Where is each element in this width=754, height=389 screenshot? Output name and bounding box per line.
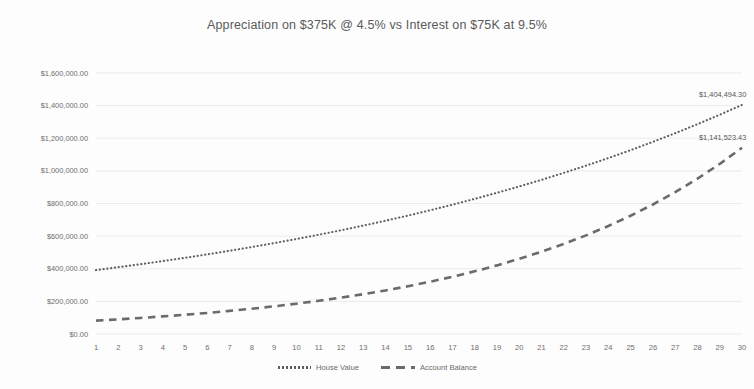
chart-plot-area: $1,600,000.00$1,400,000.00$1,200,000.00$… bbox=[0, 0, 754, 389]
series-group bbox=[96, 105, 742, 321]
x-axis-tick-label: 9 bbox=[272, 343, 276, 352]
x-axis-tick-label: 19 bbox=[493, 343, 501, 352]
data-point-label: $1,404,494.30 bbox=[699, 90, 746, 99]
x-axis-tick-label: 17 bbox=[448, 343, 456, 352]
series-line-house-value bbox=[96, 105, 742, 270]
y-axis-tick-label: $1,400,000.00 bbox=[41, 101, 88, 110]
x-axis-tick-label: 27 bbox=[671, 343, 679, 352]
legend-item-house-value[interactable]: House Value bbox=[277, 363, 359, 372]
x-axis-labels-group: 1234567891011121314151617181920212223242… bbox=[94, 343, 746, 352]
dashed-line-icon bbox=[381, 366, 415, 369]
y-axis-labels-group: $1,600,000.00$1,400,000.00$1,200,000.00$… bbox=[41, 69, 88, 339]
x-axis-tick-label: 8 bbox=[250, 343, 254, 352]
x-axis-tick-label: 23 bbox=[582, 343, 590, 352]
chart-container: Appreciation on $375K @ 4.5% vs Interest… bbox=[0, 0, 754, 389]
y-axis-tick-label: $200,000.00 bbox=[47, 297, 88, 306]
x-axis-tick-label: 7 bbox=[228, 343, 232, 352]
x-axis-tick-label: 30 bbox=[738, 343, 746, 352]
x-axis-tick-label: 20 bbox=[515, 343, 523, 352]
x-axis-tick-label: 5 bbox=[183, 343, 187, 352]
x-axis-tick-label: 25 bbox=[626, 343, 634, 352]
x-axis-tick-label: 22 bbox=[560, 343, 568, 352]
x-axis-tick-label: 16 bbox=[426, 343, 434, 352]
data-point-label: $1,141,523.43 bbox=[699, 133, 746, 142]
x-axis-tick-label: 4 bbox=[161, 343, 165, 352]
x-axis-tick-label: 24 bbox=[604, 343, 612, 352]
dotted-line-icon bbox=[277, 366, 311, 369]
x-axis-tick-label: 1 bbox=[94, 343, 98, 352]
x-axis-tick-label: 12 bbox=[337, 343, 345, 352]
x-axis-tick-label: 18 bbox=[470, 343, 478, 352]
y-axis-tick-label: $400,000.00 bbox=[47, 264, 88, 273]
series-line-account-balance bbox=[96, 148, 742, 321]
gridlines-group bbox=[96, 73, 742, 334]
legend-label-house-value: House Value bbox=[316, 363, 359, 372]
y-axis-tick-label: $1,200,000.00 bbox=[41, 134, 88, 143]
x-axis-tick-label: 21 bbox=[537, 343, 545, 352]
chart-legend: House Value Account Balance bbox=[0, 363, 754, 372]
x-axis-tick-label: 2 bbox=[116, 343, 120, 352]
x-axis-tick-label: 29 bbox=[715, 343, 723, 352]
x-axis-tick-label: 11 bbox=[315, 343, 323, 352]
y-axis-tick-label: $1,000,000.00 bbox=[41, 166, 88, 175]
y-axis-tick-label: $600,000.00 bbox=[47, 232, 88, 241]
y-axis-tick-label: $1,600,000.00 bbox=[41, 69, 88, 78]
x-axis-tick-label: 13 bbox=[359, 343, 367, 352]
legend-label-account-balance: Account Balance bbox=[420, 363, 477, 372]
x-axis-tick-label: 15 bbox=[404, 343, 412, 352]
x-axis-tick-label: 10 bbox=[292, 343, 300, 352]
x-axis-tick-label: 6 bbox=[205, 343, 209, 352]
y-axis-tick-label: $800,000.00 bbox=[47, 199, 88, 208]
legend-item-account-balance[interactable]: Account Balance bbox=[381, 363, 477, 372]
x-axis-tick-label: 28 bbox=[693, 343, 701, 352]
y-axis-tick-label: $0.00 bbox=[70, 330, 89, 339]
x-axis-tick-label: 26 bbox=[649, 343, 657, 352]
x-axis-tick-label: 14 bbox=[381, 343, 389, 352]
x-axis-tick-label: 3 bbox=[138, 343, 142, 352]
data-point-labels-group: $1,404,494.30$1,141,523.43 bbox=[699, 90, 746, 142]
